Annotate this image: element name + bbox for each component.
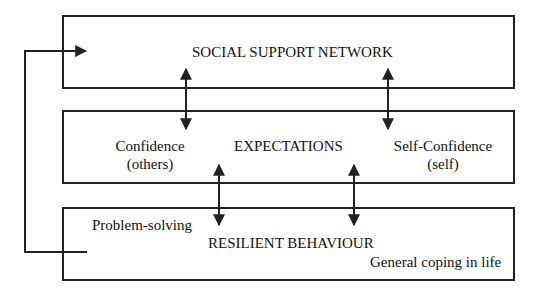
feedback-loop-arrow (25, 51, 87, 252)
social-support-network-title: SOCIAL SUPPORT NETWORK (192, 43, 393, 61)
self-label: (self) (383, 155, 503, 173)
problem-solving-label: Problem-solving (92, 216, 192, 234)
expectations-title: EXPECTATIONS (234, 137, 343, 155)
others-label: (others) (100, 155, 200, 173)
confidence-others-label: Confidence (others) (100, 137, 200, 173)
self-confidence-text: Self-Confidence (383, 137, 503, 155)
resilient-behaviour-title: RESILIENT BEHAVIOUR (208, 234, 374, 252)
confidence-label: Confidence (100, 137, 200, 155)
general-coping-label: General coping in life (370, 253, 501, 271)
self-confidence-label: Self-Confidence (self) (383, 137, 503, 173)
